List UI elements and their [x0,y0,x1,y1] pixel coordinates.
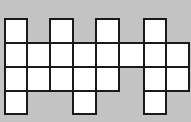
grid-cell-r2-c4 [95,66,120,92]
grid-cell-r2-c3 [72,66,97,92]
grid-cell-r3-c0 [4,90,28,115]
grid-diagram [0,0,191,122]
grid-cell-r1-c7 [165,42,190,68]
grid-cell-r3-c3 [72,90,97,115]
grid-cell-r2-c7 [165,66,190,92]
grid-cell-r3-c6 [143,90,167,115]
grid-cell-r1-c5 [118,42,145,68]
grid-cell-r1-c6 [143,42,167,68]
grid-cell-r1-c4 [95,42,120,68]
grid-cell-r0-c0 [4,18,28,44]
grid-cell-r2-c0 [4,66,28,92]
grid-cell-r0-c4 [95,18,120,44]
grid-cell-r1-c0 [4,42,28,68]
grid-cell-r2-c6 [143,66,167,92]
grid-cell-r1-c1 [26,42,51,68]
grid-cell-r0-c2 [49,18,74,44]
grid-cell-r2-c1 [26,66,51,92]
grid-cell-r2-c2 [49,66,74,92]
grid-cell-r1-c3 [72,42,97,68]
grid-cell-r1-c2 [49,42,74,68]
grid-cell-r0-c6 [143,18,167,44]
